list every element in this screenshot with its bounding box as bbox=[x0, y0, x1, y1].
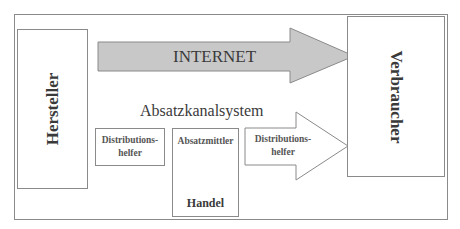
distribution-helper-box: Distributions- helfer bbox=[95, 128, 165, 166]
trade-label: Handel bbox=[173, 197, 238, 210]
distribution-helper-2-line1: Distributions- bbox=[250, 133, 316, 146]
distribution-helper-line2: helfer bbox=[96, 147, 164, 160]
intermediary-label: Absatzmittler bbox=[173, 135, 238, 148]
consumer-label: Verbraucher bbox=[386, 50, 406, 143]
internet-label: INTERNET bbox=[173, 47, 256, 67]
distribution-helper-line1: Distributions- bbox=[96, 134, 164, 147]
channel-system-label: Absatzkanalsystem bbox=[140, 102, 264, 120]
producer-box: Hersteller bbox=[17, 29, 88, 189]
producer-label: Hersteller bbox=[43, 73, 63, 146]
distribution-helper-2-line2: helfer bbox=[250, 146, 316, 159]
distribution-helper-arrow-text: Distributions- helfer bbox=[250, 133, 316, 159]
consumer-box: Verbraucher bbox=[347, 16, 445, 177]
intermediary-box: Absatzmittler Handel bbox=[172, 128, 239, 217]
